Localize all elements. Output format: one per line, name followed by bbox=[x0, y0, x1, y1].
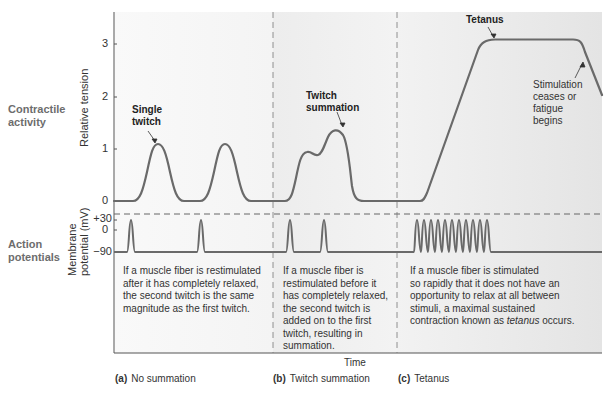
twitch-summation-label-line1: Twitch bbox=[306, 90, 359, 102]
panel-c-caption: (c)Tetanus bbox=[398, 373, 449, 384]
panel-b-desc-line: twitch, resulting in bbox=[283, 328, 395, 341]
panel-a-title: No summation bbox=[131, 373, 195, 384]
stimulation-label-line3: fatigue bbox=[533, 103, 582, 115]
stimulation-label-line1: Stimulation bbox=[533, 79, 582, 91]
tension-tick-3: 3 bbox=[86, 37, 108, 49]
panel-a-desc-line: If a muscle fiber is restimulated bbox=[123, 265, 271, 278]
stimulation-label-line2: ceases or bbox=[533, 91, 582, 103]
row-label-contractile: Contractile activity bbox=[8, 103, 65, 129]
panel-b-desc-line: summation. bbox=[283, 340, 395, 353]
single-twitch-label-line2: twitch bbox=[132, 116, 162, 128]
tetanus-term: tetanus bbox=[507, 315, 540, 326]
panel-c-desc-line: If a muscle fiber is stimulated bbox=[410, 265, 600, 278]
row-label-action-line2: potentials bbox=[8, 251, 60, 264]
panel-b-desc-line: has completely relaxed, bbox=[283, 290, 395, 303]
panel-c-desc-line: stimuli, a maximal sustained bbox=[410, 303, 600, 316]
row-label-action-line1: Action bbox=[8, 238, 60, 251]
panel-a-description: If a muscle fiber is restimulated after … bbox=[123, 265, 271, 315]
panel-a-caption: (a)No summation bbox=[115, 373, 196, 384]
row-label-contractile-line1: Contractile bbox=[8, 103, 65, 116]
panel-b-desc-line: the second twitch is bbox=[283, 303, 395, 316]
row-label-contractile-line2: activity bbox=[8, 116, 65, 129]
panel-b-desc-line: If a muscle fiber is bbox=[283, 265, 395, 278]
panel-a-letter: (a) bbox=[115, 373, 127, 384]
panel-a-desc-line: after it has completely relaxed, bbox=[123, 278, 271, 291]
stimulation-ceases-label: Stimulation ceases or fatigue begins bbox=[533, 79, 582, 127]
tension-axis-title: Relative tension bbox=[78, 69, 90, 147]
tetanus-label: Tetanus bbox=[466, 14, 504, 26]
tension-tick-2: 2 bbox=[86, 90, 108, 102]
membrane-axis-title-line1: Membrane bbox=[66, 223, 78, 276]
panel-b-letter: (b) bbox=[273, 373, 286, 384]
stimulation-label-line4: begins bbox=[533, 115, 582, 127]
panel-c-letter: (c) bbox=[398, 373, 410, 384]
panel-c-title: Tetanus bbox=[414, 373, 449, 384]
panel-a-desc-line: the second twitch is the same bbox=[123, 290, 271, 303]
panel-b-title: Twitch summation bbox=[290, 373, 370, 384]
panel-c-desc-line-last: contraction known as tetanus occurs. bbox=[410, 315, 600, 328]
panel-b-desc-line: restimulated before it bbox=[283, 278, 395, 291]
panel-b-caption: (b)Twitch summation bbox=[273, 373, 370, 384]
tension-tick-1: 1 bbox=[86, 142, 108, 154]
panel-c-desc-tail: occurs. bbox=[540, 315, 575, 326]
x-axis-title: Time bbox=[344, 357, 366, 368]
membrane-tick-plus30: +30 bbox=[86, 213, 112, 224]
twitch-summation-label-line2: summation bbox=[306, 102, 359, 114]
single-twitch-label-line1: Single bbox=[132, 104, 162, 116]
membrane-tick-minus90: −90 bbox=[84, 246, 112, 257]
panel-a-desc-line: magnitude as the first twitch. bbox=[123, 303, 271, 316]
panel-c-description: If a muscle fiber is stimulated so rapid… bbox=[410, 265, 600, 328]
tension-tick-0: 0 bbox=[86, 194, 108, 206]
row-label-action: Action potentials bbox=[8, 238, 60, 264]
single-twitch-label: Single twitch bbox=[132, 104, 162, 128]
panel-c-desc-line: so rapidly that it does not have an bbox=[410, 278, 600, 291]
membrane-tick-0: 0 bbox=[86, 224, 108, 235]
twitch-summation-label: Twitch summation bbox=[306, 90, 359, 114]
panel-b-description: If a muscle fiber is restimulated before… bbox=[283, 265, 395, 353]
panel-b-desc-line: added on to the first bbox=[283, 315, 395, 328]
panel-c-desc-text: contraction known as bbox=[410, 315, 507, 326]
panel-c-desc-line: opportunity to relax at all between bbox=[410, 290, 600, 303]
